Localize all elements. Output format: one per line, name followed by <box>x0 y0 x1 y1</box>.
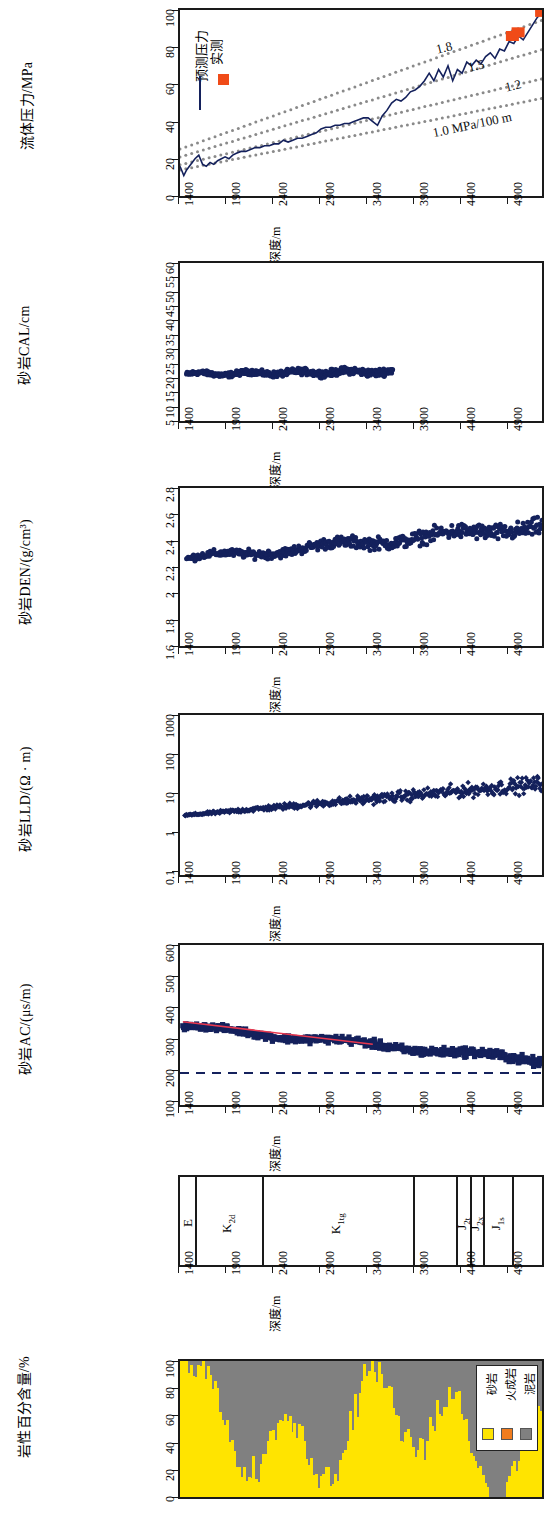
gradient-reference-dot <box>412 65 415 68</box>
strata-unit-label: K1tg <box>329 1202 347 1246</box>
depth-tick-mark <box>225 198 226 204</box>
gradient-reference-dot <box>482 40 485 43</box>
gradient-reference-dot <box>348 135 351 138</box>
depth-tick-label: 3400 <box>371 861 383 885</box>
depth-tick-mark <box>178 198 179 204</box>
gradient-reference-dot <box>429 81 432 84</box>
depth-tick-label: 3400 <box>371 1091 383 1115</box>
gradient-reference-dot <box>266 151 269 154</box>
panel-lld: 砂岩LLD/(Ω · m) 0.11101001000 140019002400… <box>0 703 549 933</box>
gradient-reference-dot <box>254 154 257 157</box>
gradient-reference-dot <box>359 133 362 136</box>
depth-tick-mark <box>225 423 226 429</box>
depth-tick-mark <box>272 877 273 883</box>
data-point <box>449 523 454 528</box>
depth-tick-label: 1400 <box>183 407 195 431</box>
depth-tick-label: 4400 <box>465 1091 477 1115</box>
gradient-reference-dot <box>377 129 380 132</box>
depth-tick-label: 2900 <box>324 1091 336 1115</box>
gradient-reference-dot <box>528 99 531 102</box>
gradient-reference-dot <box>231 129 234 132</box>
panel-cal: 砂岩CAL/cm 51015202530354045505560 1400190… <box>0 253 549 478</box>
depth-tick-mark <box>319 877 320 883</box>
gradient-reference-dot <box>517 102 520 105</box>
lithology-legend-swatch <box>520 1428 532 1440</box>
gradient-reference-dot <box>330 111 333 114</box>
data-point <box>502 524 507 529</box>
gradient-reference-dot <box>214 155 217 158</box>
depth-tick-mark <box>225 1107 226 1113</box>
gradient-reference-dot <box>400 125 403 128</box>
gradient-reference-dot <box>435 102 438 105</box>
legend-label-measured: 实测 <box>206 27 225 77</box>
gradient-reference-dot <box>464 95 467 98</box>
gradient-reference-dot <box>243 136 246 139</box>
gradient-reference-dot <box>394 126 397 129</box>
gradient-reference-dot <box>476 42 479 45</box>
gradient-reference-dot <box>528 52 531 55</box>
gradient-reference-dot <box>278 126 281 129</box>
gradient-reference-dot <box>254 133 257 136</box>
gradient-reference-dot <box>324 96 327 99</box>
depth-tick-label: 1400 <box>183 182 195 206</box>
depth-tick-mark <box>178 423 179 429</box>
lithology-legend: 砂岩火成岩泥岩 <box>476 1365 538 1451</box>
depth-tick-label: 3400 <box>371 407 383 431</box>
gradient-reference-dot <box>336 137 339 140</box>
gradient-reference-dot <box>179 148 182 151</box>
gradient-reference-dot <box>499 105 502 108</box>
gradient-reference-dot <box>423 60 426 63</box>
gradient-reference-dot <box>412 122 415 125</box>
depth-tick-label: 3400 <box>371 632 383 656</box>
depth-tick-label: 2400 <box>277 1251 289 1275</box>
gradient-reference-dot <box>388 113 391 116</box>
depth-tick-label: 2900 <box>324 632 336 656</box>
depth-tick-mark <box>460 1267 461 1273</box>
gradient-reference-dot <box>482 109 485 112</box>
lithology-legend-label: 火成岩 <box>502 1362 518 1406</box>
gradient-reference-dot <box>196 165 199 168</box>
gradient-reference-dot <box>237 127 240 130</box>
gradient-reference-dot <box>488 107 491 110</box>
data-point <box>535 515 540 520</box>
depth-tick-label: 4900 <box>512 182 524 206</box>
pressure-plot-area: 1.8 1.5 1.2 1.0 MPa/100 m 预测压力 实测 <box>178 8 544 198</box>
gradient-reference-dot <box>307 102 310 105</box>
depth-tick-label: 1400 <box>183 861 195 885</box>
data-point <box>377 547 382 552</box>
data-point <box>434 526 439 531</box>
depth-tick-mark <box>507 1267 508 1273</box>
gradient-reference-dot <box>324 140 327 143</box>
gradient-reference-dot <box>301 104 304 107</box>
gradient-reference-dot <box>348 105 351 108</box>
gradient-reference-dot <box>342 90 345 93</box>
gradient-reference-dot <box>534 50 537 53</box>
ac-plot-area <box>178 943 544 1107</box>
lithology-legend-swatch <box>501 1428 513 1440</box>
gradient-reference-dot <box>511 57 514 60</box>
lithology-legend-swatch <box>482 1428 494 1440</box>
lld-plot-area <box>178 713 544 877</box>
gradient-reference-dot <box>453 98 456 101</box>
strata-unit-label: J1s <box>489 1202 507 1246</box>
gradient-reference-dot <box>371 79 374 82</box>
depth-tick-mark <box>272 198 273 204</box>
gradient-reference-dot <box>353 85 356 88</box>
gradient-reference-dot <box>202 158 205 161</box>
gradient-reference-dot <box>540 19 543 22</box>
gradient-reference-dot <box>365 100 368 103</box>
pressure-legend: 预测压力 实测 <box>190 24 260 124</box>
depth-tick-mark <box>272 423 273 429</box>
data-point <box>465 780 470 785</box>
gradient-reference-dot <box>231 140 234 143</box>
depth-tick-mark <box>507 877 508 883</box>
depth-tick-mark <box>178 648 179 654</box>
lithology-y-axis-title: 岩性百分含量/% <box>13 1332 33 1482</box>
gradient-reference-dot <box>301 144 304 147</box>
lithology-bar <box>486 1487 489 1497</box>
gradient-reference-dot <box>318 98 321 101</box>
gradient-reference-dot <box>190 152 193 155</box>
value-tick-label: 60 <box>164 262 176 312</box>
gradient-reference-dot <box>330 94 333 97</box>
gradient-reference-dot <box>348 87 351 90</box>
